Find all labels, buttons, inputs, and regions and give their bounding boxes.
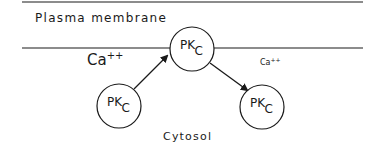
calcium-ion-left: Ca++ xyxy=(87,50,123,69)
pkc-subscript: C xyxy=(121,101,129,115)
calcium-symbol: Ca xyxy=(87,51,107,69)
svg-text:Ca++: Ca++ xyxy=(87,50,123,69)
pkc-node-membrane: PKC xyxy=(170,27,214,71)
pkc-node-cytosol-inactive: PKC xyxy=(97,84,141,128)
arrow-translocation-to-membrane xyxy=(134,56,167,89)
cytosol-label: Cytosol xyxy=(163,130,212,143)
calcium-symbol: Ca xyxy=(260,58,271,67)
arrow-release-to-cytosol xyxy=(210,63,247,90)
pkc-subscript: C xyxy=(194,44,202,58)
pkc-node-cytosol-released: PKC xyxy=(240,85,284,129)
calcium-charge: ++ xyxy=(107,50,124,61)
pkc-translocation-diagram: Plasma membrane Ca++ Ca++ PKC PKC PKC C xyxy=(0,0,377,150)
pkc-subscript: C xyxy=(264,102,272,116)
plasma-membrane-label: Plasma membrane xyxy=(35,11,167,25)
calcium-ion-right: Ca++ xyxy=(260,56,281,67)
svg-text:Ca++: Ca++ xyxy=(260,56,281,67)
calcium-charge: ++ xyxy=(271,56,281,63)
